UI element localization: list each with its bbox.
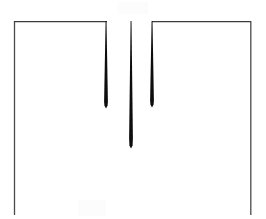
line-chart-plot (0, 0, 266, 219)
plot-background (0, 0, 266, 219)
chart-container (0, 0, 266, 219)
